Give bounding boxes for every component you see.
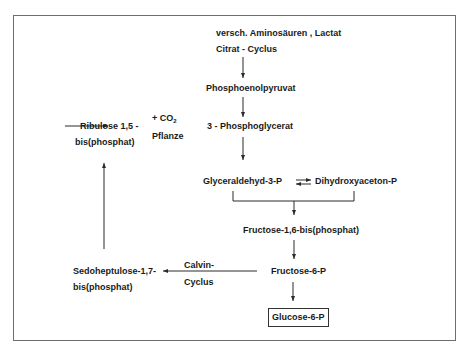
label-citrate-cycle: Citrat - Cyclus — [216, 44, 277, 55]
node-ribulose-line1: Ribulose 1,5 - — [80, 121, 139, 132]
node-glucose-6-p: Glucose-6-P — [268, 308, 329, 327]
node-phosphoenolpyruvat: Phosphoenolpyruvat — [206, 83, 296, 94]
edge-label-cyclus: Cyclus — [184, 277, 214, 288]
edge-label-calvin: Calvin- — [184, 260, 214, 271]
label-amino-acids-lactate: versch. Aminosäuren , Lactat — [216, 28, 341, 39]
edge-label-co2: + CO2 — [152, 113, 177, 127]
node-glyceraldehyd-3-p: Glyceraldehyd-3-P — [203, 176, 282, 187]
node-dihydroxyaceton-p: Dihydroxyaceton-P — [315, 176, 397, 187]
node-sedoheptulose-line2: bis(phosphat) — [73, 282, 133, 293]
node-fructose-1-6-bisphosphat: Fructose-1,6-bis(phosphat) — [243, 225, 359, 236]
node-ribulose-line2: bis(phosphat) — [75, 137, 135, 148]
node-fructose-6-p: Fructose-6-P — [271, 266, 326, 277]
edge-label-pflanze: Pflanze — [152, 131, 184, 142]
node-sedoheptulose-line1: Sedoheptulose-1,7- — [73, 266, 156, 277]
node-3-phosphoglycerat: 3 - Phosphoglycerat — [207, 121, 293, 132]
